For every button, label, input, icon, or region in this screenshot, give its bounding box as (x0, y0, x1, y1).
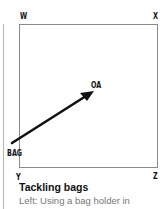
caption-title: Tackling bags (19, 182, 88, 193)
target-label-oa: OA (91, 82, 101, 90)
arrow-icon (0, 0, 164, 209)
origin-label-bag: BAG (7, 150, 22, 158)
corner-label-z: Z (153, 172, 158, 181)
caption-body: Left: Using a bag holder in (19, 196, 130, 206)
